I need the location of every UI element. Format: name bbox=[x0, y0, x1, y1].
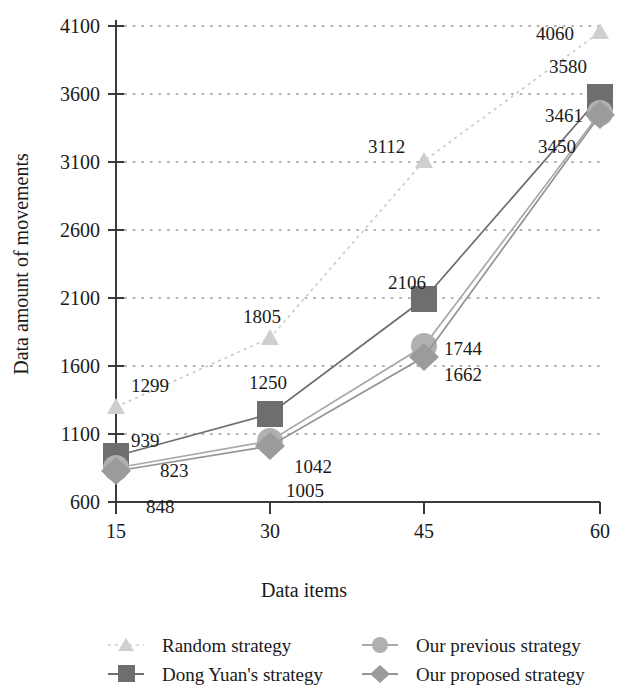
label-previous-30: 1042 bbox=[294, 456, 332, 477]
y-tick-label-3600: 3600 bbox=[60, 83, 100, 105]
x-tick-label-60: 60 bbox=[590, 520, 610, 542]
data-point-labels: 1299 939 823 848 1805 1250 1042 1005 311… bbox=[131, 23, 587, 517]
series-line-dongyuan bbox=[116, 97, 600, 456]
gridlines bbox=[116, 26, 600, 434]
series-random-strategy bbox=[107, 23, 609, 414]
marker-triangle-random-15 bbox=[107, 398, 125, 414]
y-tick-label-2100: 2100 bbox=[60, 287, 100, 309]
marker-square-dongyuan-30 bbox=[257, 401, 283, 427]
y-tick-labels: 4100 3600 3100 2600 2100 1600 1100 600 bbox=[60, 15, 100, 513]
marker-triangle-random-45 bbox=[415, 152, 433, 168]
series-line-previous bbox=[116, 113, 600, 468]
label-previous-15: 848 bbox=[146, 496, 175, 517]
x-tick-label-15: 15 bbox=[106, 520, 126, 542]
y-tick-label-1600: 1600 bbox=[60, 355, 100, 377]
label-proposed-15: 823 bbox=[160, 460, 189, 481]
label-random-30: 1805 bbox=[243, 306, 281, 327]
legend-marker-square-dongyuan bbox=[118, 665, 135, 682]
y-tick-label-4100: 4100 bbox=[60, 15, 100, 37]
label-proposed-45: 1662 bbox=[444, 364, 482, 385]
label-previous-60: 3461 bbox=[545, 105, 583, 126]
series-dong-yuans-strategy bbox=[103, 84, 613, 469]
label-dongyuan-15: 939 bbox=[131, 430, 160, 451]
label-dongyuan-30: 1250 bbox=[249, 372, 287, 393]
series-our-previous-strategy bbox=[103, 100, 613, 481]
legend-marker-diamond-proposed bbox=[370, 665, 390, 683]
chart-figure: 4100 3600 3100 2600 2100 1600 1100 600 1… bbox=[0, 0, 629, 691]
legend-item-our-proposed-strategy[interactable]: Our proposed strategy bbox=[362, 664, 585, 685]
series-our-proposed-strategy bbox=[101, 101, 615, 485]
label-previous-45: 1744 bbox=[444, 338, 483, 359]
legend-label-random-strategy: Random strategy bbox=[162, 635, 292, 656]
series-line-random bbox=[116, 32, 600, 407]
label-proposed-60: 3450 bbox=[538, 136, 576, 157]
legend-label-dong-yuans-strategy: Dong Yuan's strategy bbox=[162, 664, 324, 685]
legend: Random strategy Our previous strategy Do… bbox=[108, 635, 585, 685]
label-dongyuan-60: 3580 bbox=[549, 56, 587, 77]
y-tick-label-3100: 3100 bbox=[60, 151, 100, 173]
y-tick-label-1100: 1100 bbox=[61, 423, 100, 445]
y-tick-label-600: 600 bbox=[70, 491, 100, 513]
series-line-proposed bbox=[116, 115, 600, 471]
line-chart: 4100 3600 3100 2600 2100 1600 1100 600 1… bbox=[0, 0, 629, 691]
axes bbox=[108, 20, 600, 514]
legend-item-dong-yuans-strategy[interactable]: Dong Yuan's strategy bbox=[108, 664, 324, 685]
x-tick-label-45: 45 bbox=[414, 520, 434, 542]
legend-item-random-strategy[interactable]: Random strategy bbox=[108, 635, 292, 656]
legend-item-our-previous-strategy[interactable]: Our previous strategy bbox=[362, 635, 581, 656]
y-tick-label-2600: 2600 bbox=[60, 219, 100, 241]
x-axis-title: Data items bbox=[261, 579, 347, 601]
marker-triangle-random-60 bbox=[591, 23, 609, 39]
label-proposed-30: 1005 bbox=[286, 480, 324, 501]
y-axis-title: Data amount of movements bbox=[10, 153, 32, 375]
x-tick-label-30: 30 bbox=[260, 520, 280, 542]
x-tick-labels: 15 30 45 60 bbox=[106, 520, 610, 542]
legend-label-our-previous-strategy: Our previous strategy bbox=[416, 635, 581, 656]
legend-label-our-proposed-strategy: Our proposed strategy bbox=[416, 664, 585, 685]
label-random-60: 4060 bbox=[536, 23, 574, 44]
label-random-45: 3112 bbox=[368, 136, 405, 157]
label-dongyuan-45: 2106 bbox=[388, 272, 426, 293]
legend-marker-circle-previous bbox=[372, 637, 388, 653]
label-random-15: 1299 bbox=[131, 375, 169, 396]
